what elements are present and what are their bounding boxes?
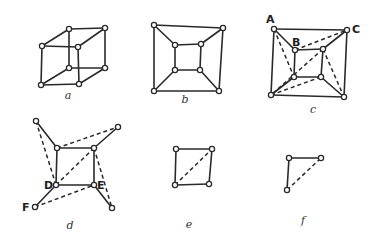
figure-caption: b [181, 93, 188, 106]
solid-edge [41, 46, 42, 85]
dashed-edge [94, 148, 112, 208]
solid-edge [271, 77, 294, 95]
solid-edge [175, 184, 209, 185]
solid-edge [42, 46, 78, 47]
dashed-edge [36, 121, 56, 185]
vertex-node [172, 67, 177, 72]
solid-edge [175, 44, 201, 45]
solid-edge [323, 30, 347, 49]
vertex-node [91, 145, 96, 150]
solid-edge [175, 149, 176, 185]
vertex-node [318, 155, 323, 160]
vertex-node [341, 94, 346, 99]
solid-edge [36, 121, 57, 148]
solid-edge [94, 127, 118, 148]
figure-caption: e [186, 218, 193, 231]
vertex-node [66, 26, 71, 31]
vertex-node [220, 25, 225, 30]
dashed-edge [175, 149, 212, 185]
solid-edge [271, 29, 274, 95]
solid-edge [69, 28, 105, 29]
solid-edge [321, 77, 344, 97]
solid-edge [295, 49, 323, 50]
dashed-edge [274, 29, 294, 77]
vertex-node [91, 182, 96, 187]
dashed-edge [323, 49, 344, 97]
solid-edge [56, 148, 57, 185]
dashed-edge [56, 148, 94, 185]
vertex-label: D [44, 179, 53, 192]
vertex-node [172, 42, 177, 47]
solid-edge [200, 44, 201, 70]
graph-reduction-diagram: a b ABCc DEFd e f [0, 0, 384, 248]
vertex-node [66, 65, 71, 70]
vertex-label: F [22, 201, 30, 214]
figure-caption: d [66, 219, 73, 232]
solid-edge [78, 28, 105, 47]
solid-edge [79, 68, 105, 84]
solid-edge [78, 47, 79, 84]
vertex-node [206, 181, 211, 186]
figure-e-square-with-diagonal: e [172, 146, 214, 231]
vertex-node [151, 22, 156, 27]
vertex-node [318, 74, 323, 79]
figure-caption: a [65, 89, 72, 102]
vertex-node [102, 65, 107, 70]
figure-caption: f [300, 214, 307, 227]
vertex-node [115, 124, 120, 129]
solid-edge [274, 29, 347, 30]
solid-edge [219, 28, 223, 91]
solid-edge [200, 70, 219, 91]
vertex-node [39, 43, 44, 48]
vertex-node [109, 205, 114, 210]
vertex-node [198, 41, 203, 46]
vertex-node [268, 92, 273, 97]
vertex-label: E [97, 179, 105, 192]
solid-edge [209, 149, 212, 184]
vertex-node [286, 155, 291, 160]
vertex-label: A [266, 13, 275, 26]
vertex-node [151, 88, 156, 93]
solid-edge [201, 28, 223, 44]
solid-edge [344, 30, 347, 97]
vertex-node [75, 44, 80, 49]
solid-edge [42, 29, 69, 46]
vertex-node [197, 67, 202, 72]
figure-d-reduced-graph: DEFd [22, 118, 121, 232]
vertex-node [53, 182, 58, 187]
vertex-node [172, 182, 177, 187]
figure-a-cube-graph: a [38, 25, 107, 102]
vertex-node [216, 88, 221, 93]
vertex-node [76, 81, 81, 86]
vertex-node [344, 27, 349, 32]
solid-edge [271, 95, 344, 97]
vertex-node [33, 118, 38, 123]
dashed-edge [287, 158, 321, 190]
solid-edge [321, 49, 323, 77]
vertex-node [102, 25, 107, 30]
solid-edge [41, 68, 69, 85]
vertex-node [209, 146, 214, 151]
vertex-node [173, 146, 178, 151]
vertex-node [32, 204, 37, 209]
vertex-label: B [292, 36, 300, 49]
figure-f-triangle: f [284, 155, 323, 227]
solid-edge [154, 25, 223, 28]
vertex-node [271, 26, 276, 31]
dashed-edge [271, 77, 321, 95]
vertex-node [38, 82, 43, 87]
vertex-node [284, 187, 289, 192]
vertex-node [320, 46, 325, 51]
solid-edge [41, 84, 79, 85]
figure-caption: c [310, 103, 316, 116]
solid-edge [154, 70, 175, 91]
figure-b-planar-cube-graph: b [151, 22, 225, 106]
figure-c-graph-with-diagonals: ABCc [266, 13, 360, 116]
vertex-node [54, 145, 59, 150]
solid-edge [287, 158, 289, 190]
vertex-label: C [352, 23, 360, 36]
dashed-edge [57, 127, 118, 148]
solid-edge [294, 50, 295, 77]
vertex-node [291, 74, 296, 79]
solid-edge [154, 25, 175, 45]
